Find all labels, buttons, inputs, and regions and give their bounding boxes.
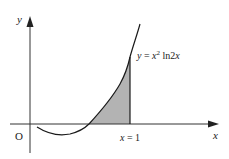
x-equals-1-rest: = 1: [124, 132, 140, 143]
diagram: y O x x = 1 y = x2 ln2x: [0, 0, 229, 159]
y-axis-arrow-icon: [27, 16, 34, 27]
x-equals-1-label: x = 1: [119, 132, 140, 143]
x-axis-label: x: [212, 129, 218, 141]
function-label: y = x2 ln2x: [136, 49, 180, 61]
origin-label: O: [15, 130, 23, 142]
x-axis-arrow-icon: [208, 121, 219, 128]
graph-canvas: y O x x = 1 y = x2 ln2x: [0, 0, 229, 159]
shaded-area: [89, 57, 130, 124]
y-axis-label: y: [16, 13, 22, 25]
